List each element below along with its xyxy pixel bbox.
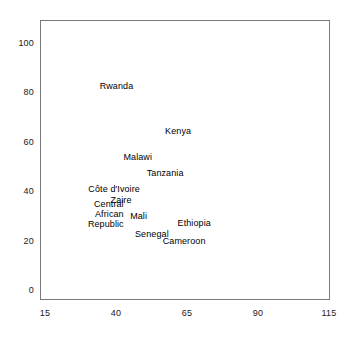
data-point-label: Tanzania	[147, 168, 184, 178]
scatter-chart: 100 80 60 40 20 0 Rwanda Kenya Malawi Ta…	[0, 0, 347, 339]
data-point-label: Mali	[130, 211, 147, 221]
y-tick-label: 60	[24, 138, 34, 147]
data-point-label: Rwanda	[100, 81, 134, 91]
x-tick-label: 115	[322, 309, 337, 318]
data-point-label: Ethiopia	[178, 218, 211, 228]
plot-area: Rwanda Kenya Malawi Tanzania Côte d'Ivoi…	[41, 21, 329, 299]
y-tick-label: 40	[24, 187, 34, 196]
data-point-label: Central African Republic	[88, 199, 124, 229]
x-tick-label: 90	[253, 309, 263, 318]
data-point-label: Côte d'Ivoire	[88, 184, 140, 194]
data-point-label: Kenya	[165, 126, 191, 136]
y-tick-label: 100	[18, 39, 34, 48]
data-point-label: Cameroon	[163, 236, 206, 246]
x-tick-label: 40	[111, 309, 121, 318]
y-tick-label: 0	[29, 286, 34, 295]
y-tick-label: 80	[24, 88, 34, 97]
x-tick-label: 15	[40, 309, 50, 318]
x-tick-label: 65	[182, 309, 192, 318]
y-axis: 100 80 60 40 20 0	[0, 0, 34, 339]
data-point-label: Malawi	[123, 152, 152, 162]
y-tick-label: 20	[24, 237, 34, 246]
x-axis: 15 40 65 90 115	[0, 309, 347, 325]
